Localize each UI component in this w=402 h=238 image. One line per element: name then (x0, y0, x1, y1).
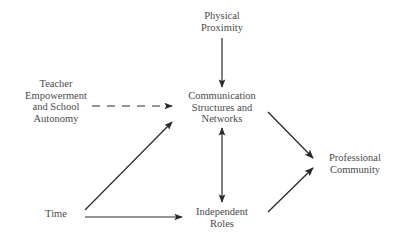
node-label-line: Teacher (16, 78, 96, 90)
node-label-line: Roles (186, 218, 258, 230)
node-label-line: Empowerment (16, 90, 96, 102)
diagram-canvas: Physical Proximity Teacher Empowerment a… (0, 0, 402, 238)
node-independent-roles: Independent Roles (186, 206, 258, 229)
node-label-line: and School (16, 101, 96, 113)
node-physical-proximity: Physical Proximity (182, 10, 262, 33)
node-label-line: Physical (182, 10, 262, 22)
node-label-line: Proximity (182, 22, 262, 34)
node-time: Time (38, 208, 74, 220)
node-label-line: Independent (186, 206, 258, 218)
edge-communication-to-community (268, 112, 313, 158)
node-teacher-empowerment: Teacher Empowerment and School Autonomy (16, 78, 96, 124)
edge-time-to-communication (85, 122, 172, 210)
node-label-line: Autonomy (16, 113, 96, 125)
node-label-line: Communication (176, 90, 268, 102)
node-professional-community: Professional Community (318, 152, 392, 175)
edge-roles-to-community (268, 168, 313, 212)
node-label-line: Time (38, 208, 74, 220)
node-label-line: Networks (176, 113, 268, 125)
node-label-line: Community (318, 164, 392, 176)
node-label-line: Professional (318, 152, 392, 164)
node-label-line: Structures and (176, 102, 268, 114)
node-communication-structures: Communication Structures and Networks (176, 90, 268, 125)
